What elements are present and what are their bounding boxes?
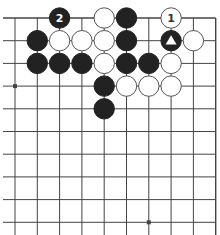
white-stone[interactable]: [94, 53, 114, 73]
move-number-label: 2: [56, 12, 64, 25]
black-stone[interactable]: [116, 53, 136, 73]
star-point: [13, 84, 17, 88]
white-stone[interactable]: [161, 76, 181, 96]
white-stone[interactable]: [116, 76, 136, 96]
star-point: [147, 220, 151, 224]
black-stone[interactable]: [27, 53, 47, 73]
black-stone[interactable]: [94, 99, 114, 119]
black-stone[interactable]: [72, 53, 92, 73]
black-stone[interactable]: [139, 53, 159, 73]
white-stone[interactable]: [94, 31, 114, 51]
move-number-label: 1: [167, 12, 175, 25]
black-stone[interactable]: 2: [49, 8, 69, 28]
white-stone[interactable]: [94, 8, 114, 28]
black-stone[interactable]: [27, 31, 47, 51]
white-stone[interactable]: [72, 31, 92, 51]
white-stone[interactable]: [139, 76, 159, 96]
white-stone[interactable]: 1: [161, 8, 181, 28]
black-stone[interactable]: [94, 76, 114, 96]
black-stone[interactable]: [116, 31, 136, 51]
white-stone[interactable]: [183, 31, 203, 51]
go-board[interactable]: 21: [0, 0, 220, 235]
white-stone[interactable]: [161, 53, 181, 73]
black-stone[interactable]: [116, 8, 136, 28]
black-stone[interactable]: [49, 53, 69, 73]
black-stone[interactable]: [161, 31, 181, 51]
white-stone[interactable]: [49, 31, 69, 51]
